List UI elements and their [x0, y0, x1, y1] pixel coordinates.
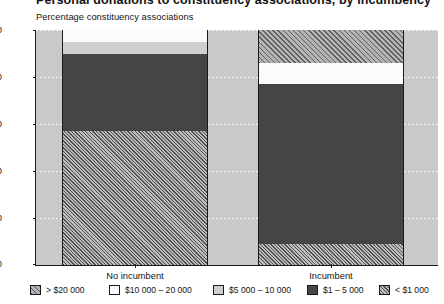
legend-item-10k20k[interactable]: $10 000 – 20 000 [109, 285, 192, 295]
ytick-label-20: 20 [0, 214, 2, 223]
legend-item-gt20000[interactable]: > $20 000 [30, 285, 84, 295]
stacked-bar-chart: Personal donations to constituency assoc… [0, 0, 444, 304]
white-swatch-icon [109, 285, 120, 295]
xlabel-no-incumbent: No incumbent [106, 271, 163, 281]
ytick-label-40: 40 [0, 167, 2, 176]
ytick-label-0: 0 [0, 260, 2, 269]
light-dotted-swatch-icon [213, 285, 224, 295]
legend-label-1k5k: $1 – 5 000 [323, 286, 364, 295]
legend-item-lt1000[interactable]: < $1 000 [379, 285, 429, 295]
hatch-diagonal-swatch-icon [30, 285, 41, 295]
xlabel-incumbent: Incumbent [309, 271, 352, 281]
dark-dotted-swatch-icon [307, 285, 318, 295]
ytick-label-80: 80 [0, 73, 2, 82]
legend-label-lt1000: < $1 000 [395, 286, 429, 295]
xtick-incumbent [331, 264, 332, 268]
chart-legend: > $20 000 $10 000 – 20 000 $5 000 – 10 0… [0, 285, 444, 300]
legend-label-10k20k: $10 000 – 20 000 [125, 286, 192, 295]
dense-hatch-swatch-icon [379, 285, 390, 295]
legend-label-5k10k: $5 000 – 10 000 [229, 286, 291, 295]
xtick-no-incumbent [135, 264, 136, 268]
legend-label-gt20000: > $20 000 [46, 286, 84, 295]
legend-item-5k10k[interactable]: $5 000 – 10 000 [213, 285, 291, 295]
legend-item-1k5k[interactable]: $1 – 5 000 [307, 285, 364, 295]
ytick-label-60: 60 [0, 120, 2, 129]
ytick-label-100: 100 [0, 26, 2, 35]
y-axis-labels: 100 80 60 40 20 0 [0, 0, 444, 304]
